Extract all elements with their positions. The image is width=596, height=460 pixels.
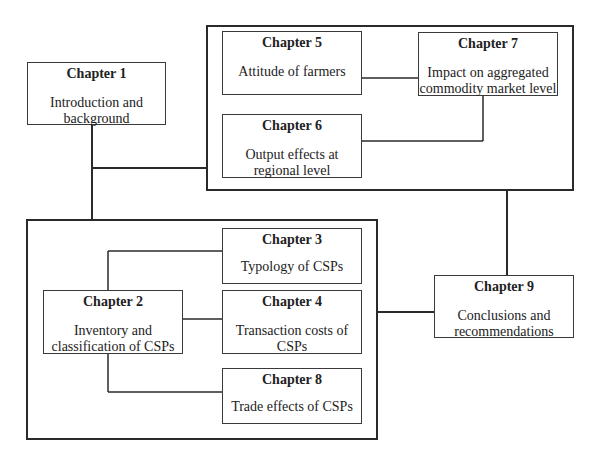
chapter-title: Chapter 8 bbox=[223, 372, 361, 388]
chapter-desc: Typology of CSPs bbox=[223, 259, 361, 275]
chapter-desc: Conclusions and recommendations bbox=[435, 308, 573, 340]
chapter-desc: Inventory and classification of CSPs bbox=[44, 323, 182, 355]
chapter-2-box: Chapter 2 Inventory and classification o… bbox=[43, 290, 183, 354]
chapter-desc: Impact on aggregated commodity market le… bbox=[419, 65, 557, 97]
chapter-6-box: Chapter 6 Output effects at regional lev… bbox=[222, 114, 362, 178]
chapter-5-box: Chapter 5 Attitude of farmers bbox=[222, 31, 362, 95]
chapter-7-box: Chapter 7 Impact on aggregated commodity… bbox=[418, 32, 558, 96]
chapter-desc: Transaction costs of CSPs bbox=[223, 323, 361, 355]
chapter-desc: Trade effects of CSPs bbox=[223, 399, 361, 415]
chapter-title: Chapter 1 bbox=[28, 66, 165, 82]
chapter-title: Chapter 6 bbox=[223, 118, 361, 134]
chapter-desc: Attitude of farmers bbox=[223, 64, 361, 80]
chapter-title: Chapter 3 bbox=[223, 232, 361, 248]
chapter-title: Chapter 5 bbox=[223, 35, 361, 51]
chapter-title: Chapter 7 bbox=[419, 36, 557, 52]
chapter-desc: Output effects at regional level bbox=[223, 147, 361, 179]
chapter-3-box: Chapter 3 Typology of CSPs bbox=[222, 228, 362, 284]
chapter-1-box: Chapter 1 Introduction and background bbox=[27, 62, 166, 125]
chapter-8-box: Chapter 8 Trade effects of CSPs bbox=[222, 368, 362, 424]
chapter-title: Chapter 9 bbox=[435, 279, 573, 295]
chapter-title: Chapter 4 bbox=[223, 294, 361, 310]
chapter-title: Chapter 2 bbox=[44, 294, 182, 310]
chapter-desc: Introduction and background bbox=[28, 95, 165, 127]
chapter-4-box: Chapter 4 Transaction costs of CSPs bbox=[222, 290, 362, 354]
chapter-9-box: Chapter 9 Conclusions and recommendation… bbox=[434, 275, 574, 338]
